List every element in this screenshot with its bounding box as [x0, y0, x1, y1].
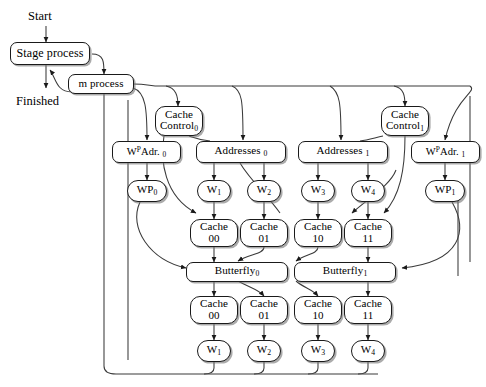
- node-cache-control-1-sub: 1: [420, 124, 424, 133]
- edge-cacheA1-to-bfly0: [238, 247, 264, 261]
- edge-bus-to-addresses1: [330, 86, 341, 140]
- edge-bfly1-to-cacheB2: [296, 281, 318, 296]
- node-cache-control-0[interactable]: Cache Control0: [155, 106, 203, 136]
- node-w4-top-sub: 4: [371, 189, 375, 198]
- node-w1-top[interactable]: W1: [197, 180, 231, 202]
- node-cache-a-11[interactable]: Cache 11: [344, 219, 392, 247]
- node-w1-bottom[interactable]: W1: [197, 340, 231, 362]
- node-wpadr-0-rest: Adr.: [141, 146, 160, 157]
- node-cache-a-11-line2: 11: [354, 233, 382, 245]
- edge-bus-to-cachectrl1: [394, 86, 405, 106]
- edge-w4b-return: [358, 362, 368, 374]
- node-cache-b-10-line2: 10: [304, 310, 332, 322]
- node-butterfly-0-label: Butterfly: [215, 264, 256, 276]
- node-m-process[interactable]: m process: [68, 74, 134, 94]
- node-cache-a-10-line2: 10: [304, 233, 332, 245]
- node-butterfly-1[interactable]: Butterfly1: [294, 262, 396, 282]
- edge-w3b-return: [308, 362, 318, 374]
- node-cache-b-00[interactable]: Cache 00: [190, 296, 238, 324]
- node-w4-bottom-label: W: [361, 343, 371, 355]
- node-butterfly-0-sub: 0: [255, 270, 259, 279]
- node-cache-b-01[interactable]: Cache 01: [240, 296, 288, 324]
- node-butterfly-0[interactable]: Butterfly0: [186, 262, 288, 282]
- node-w4-bottom[interactable]: W4: [351, 340, 385, 362]
- node-w1-top-label: W: [207, 183, 217, 195]
- node-wp-0-label: WP: [137, 183, 154, 195]
- node-w3-top[interactable]: W3: [301, 180, 335, 202]
- node-cache-control-0-sub: 0: [194, 124, 198, 133]
- node-addresses-1[interactable]: Addresses 1: [298, 141, 388, 163]
- node-cache-b-00-line2: 00: [200, 310, 228, 322]
- node-addresses-1-label: Addresses: [317, 144, 363, 156]
- node-addresses-1-sub: 1: [366, 150, 370, 159]
- node-w2-top-sub: 2: [267, 189, 271, 198]
- node-addresses-0[interactable]: Addresses 0: [196, 141, 286, 163]
- node-wp-0[interactable]: WP0: [127, 180, 167, 202]
- edge-bus-to-wpadr0: [133, 88, 147, 140]
- node-w4-bottom-sub: 4: [371, 349, 375, 358]
- edge-bus-to-cachectrl0: [166, 86, 178, 106]
- node-w3-bottom-label: W: [311, 343, 321, 355]
- start-label: Start: [28, 10, 52, 23]
- node-cache-a-00-line2: 00: [200, 233, 228, 245]
- node-w1-bottom-sub: 1: [217, 349, 221, 358]
- node-wp-1-sub: 1: [451, 189, 455, 198]
- edge-cacheA2-to-bfly1: [296, 247, 318, 261]
- edge-w2b-return: [254, 362, 264, 374]
- node-w1-bottom-label: W: [207, 343, 217, 355]
- node-w2-bottom-label: W: [257, 343, 267, 355]
- node-cache-b-11-line2: 11: [354, 310, 382, 322]
- node-w3-bottom-sub: 3: [321, 349, 325, 358]
- node-cache-b-11[interactable]: Cache 11: [344, 296, 392, 324]
- node-w4-top-label: W: [361, 183, 371, 195]
- diagram-canvas: Start Finished Stage process m process C…: [0, 0, 486, 387]
- node-wp-1[interactable]: WP1: [425, 180, 465, 202]
- edge-wp1-to-bfly1: [402, 202, 460, 268]
- node-wpadr-0[interactable]: WPAdr. 0: [112, 141, 181, 163]
- node-w3-top-label: W: [311, 183, 321, 195]
- node-addresses-0-label: Addresses: [215, 144, 261, 156]
- node-cache-b-01-line2: 01: [250, 310, 278, 322]
- node-wpadr-1-sub: 1: [461, 150, 465, 159]
- node-cache-control-1-line2: Control: [386, 119, 420, 131]
- node-cache-b-10[interactable]: Cache 10: [294, 296, 342, 324]
- node-w2-top[interactable]: W2: [247, 180, 281, 202]
- edge-stage-to-mprocess: [92, 54, 104, 74]
- node-w1-top-sub: 1: [217, 189, 221, 198]
- node-w3-bottom[interactable]: W3: [301, 340, 335, 362]
- node-w4-top[interactable]: W4: [351, 180, 385, 202]
- node-wp-0-sub: 0: [153, 189, 157, 198]
- node-wp-1-label: WP: [435, 183, 452, 195]
- edge-bus-to-addresses0: [232, 86, 243, 140]
- node-stage-process[interactable]: Stage process: [10, 42, 90, 65]
- node-wpadr-1-main: W: [426, 146, 436, 157]
- node-m-process-label: m process: [78, 78, 123, 89]
- edge-wp0-to-bfly0: [137, 202, 186, 268]
- node-cache-a-10[interactable]: Cache 10: [294, 219, 342, 247]
- edge-w1b-return: [204, 362, 214, 374]
- edge-bfly0-to-cacheB1: [238, 281, 264, 296]
- node-wpadr-0-main: W: [127, 146, 137, 157]
- node-cache-control-0-line2: Control: [160, 119, 194, 131]
- node-wpadr-1[interactable]: WPAdr. 1: [411, 141, 480, 163]
- node-butterfly-1-sub: 1: [363, 270, 367, 279]
- node-w2-bottom[interactable]: W2: [247, 340, 281, 362]
- edge-mprocess-bus: [133, 84, 470, 86]
- finished-label: Finished: [16, 95, 59, 108]
- node-cache-a-00[interactable]: Cache 00: [190, 219, 238, 247]
- node-cache-a-01-line2: 01: [250, 233, 278, 245]
- node-w2-bottom-sub: 2: [267, 349, 271, 358]
- edge-bus-to-wpadr1: [445, 86, 472, 140]
- node-stage-process-label: Stage process: [17, 47, 84, 59]
- edge-bottom-return-rail: [104, 366, 378, 374]
- node-cache-control-1[interactable]: Cache Control1: [381, 106, 429, 136]
- node-butterfly-1-label: Butterfly: [323, 264, 364, 276]
- node-w3-top-sub: 3: [321, 189, 325, 198]
- node-addresses-0-sub: 0: [264, 150, 268, 159]
- node-cache-a-01[interactable]: Cache 01: [240, 219, 288, 247]
- node-wpadr-0-sub: 0: [162, 150, 166, 159]
- node-w2-top-label: W: [257, 183, 267, 195]
- node-wpadr-1-rest: Adr.: [440, 146, 459, 157]
